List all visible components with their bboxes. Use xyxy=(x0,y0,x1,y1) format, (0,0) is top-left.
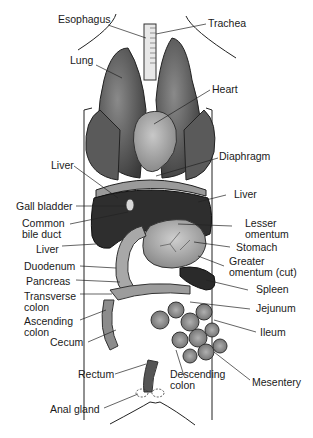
label-transverse-colon: Transverse colon xyxy=(24,291,76,313)
gall-bladder-drawing xyxy=(126,199,134,211)
label-liver-right: Liver xyxy=(234,189,257,200)
label-ascending-colon: Ascending colon xyxy=(24,316,73,338)
label-common-bile-duct: Common bile duct xyxy=(22,218,65,240)
label-trachea: Trachea xyxy=(208,18,246,29)
label-descending-colon: Descending colon xyxy=(170,369,225,391)
label-pancreas: Pancreas xyxy=(26,276,70,287)
label-gall-bladder: Gall bladder xyxy=(16,201,73,212)
stomach-drawing xyxy=(143,220,206,268)
label-mesentery: Mesentery xyxy=(252,377,301,388)
label-lesser-omentum: Lesser omentum xyxy=(245,218,289,240)
label-stomach: Stomach xyxy=(236,242,277,253)
label-cecum: Cecum xyxy=(50,337,83,348)
trachea-drawing xyxy=(144,24,156,80)
label-rectum: Rectum xyxy=(78,369,114,380)
label-liver-upper-left: Liver xyxy=(51,160,74,171)
label-liver-lower-left: Liver xyxy=(36,244,59,255)
anatomy-diagram: Esophagus Trachea Lung Heart Diaphragm L… xyxy=(0,0,313,438)
label-spleen: Spleen xyxy=(256,284,289,295)
label-anal-gland: Anal gland xyxy=(50,404,100,415)
label-diaphragm: Diaphragm xyxy=(219,151,270,162)
label-esophagus: Esophagus xyxy=(58,14,111,25)
label-greater-omentum: Greater omentum (cut) xyxy=(229,256,297,278)
label-jejunum: Jejunum xyxy=(256,303,296,314)
label-heart: Heart xyxy=(212,84,238,95)
label-duodenum: Duodenum xyxy=(24,261,75,272)
label-lung: Lung xyxy=(70,55,93,66)
label-ileum: Ileum xyxy=(260,327,286,338)
